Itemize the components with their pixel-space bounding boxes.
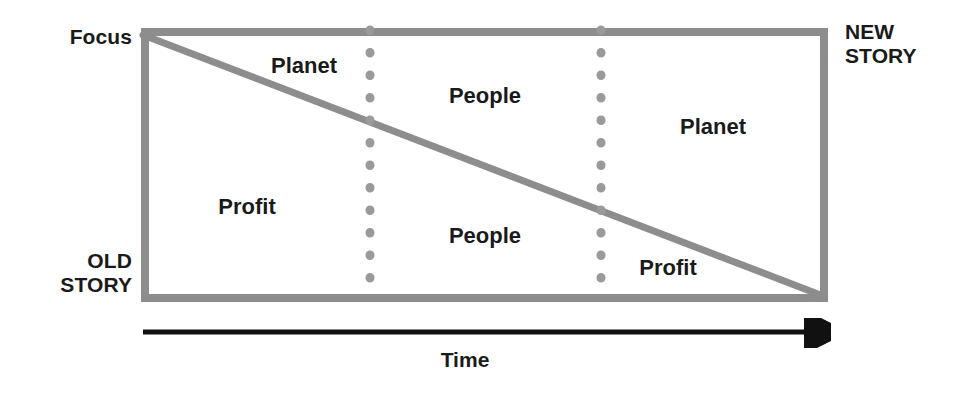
time-axis-arrow (141, 318, 831, 348)
region-label-right-upper: Planet (680, 114, 746, 140)
focus-diagonal-line (143, 35, 823, 296)
region-label-left-lower: Profit (218, 194, 275, 220)
region-label-middle-upper: People (449, 83, 521, 109)
plot-overlay (141, 28, 828, 302)
diagram-canvas: Focus OLD STORY NEW STORY Planet Profit … (0, 0, 963, 393)
region-label-left-upper: Planet (271, 53, 337, 79)
time-axis-label: Time (0, 348, 930, 372)
old-story-label: OLD STORY (0, 249, 132, 296)
focus-axis-label: Focus (0, 25, 132, 49)
region-label-middle-lower: People (449, 223, 521, 249)
new-story-label: NEW STORY (845, 20, 963, 67)
region-label-right-lower: Profit (639, 255, 696, 281)
